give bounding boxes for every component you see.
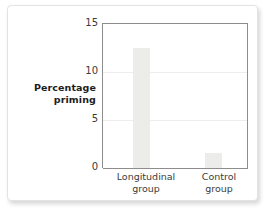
gridline-10 [103,72,247,73]
y-tick-label-0: 0 [72,162,98,172]
figure-page: Percentage priming 15 10 5 0 [0,0,269,211]
y-axis-ticks: 15 10 5 0 [68,23,98,167]
figure-card: Percentage priming 15 10 5 0 [7,5,258,201]
plot-area [102,23,248,168]
y-tick-label-15: 15 [72,18,98,28]
bar-chart: Percentage priming 15 10 5 0 [8,6,259,202]
gridline-5 [103,120,247,121]
x-label-control-group: Control group [169,171,269,194]
bar-control-group[interactable] [205,153,222,168]
y-tick-label-5: 5 [72,114,98,124]
x-axis-line [103,168,248,169]
x-label-longitudinal-line-1: Longitudinal [117,171,176,182]
x-label-control-line-2: group [169,183,269,195]
x-label-control-line-1: Control [202,171,236,182]
y-tick-label-10: 10 [72,66,98,76]
bar-longitudinal-group[interactable] [133,48,150,168]
